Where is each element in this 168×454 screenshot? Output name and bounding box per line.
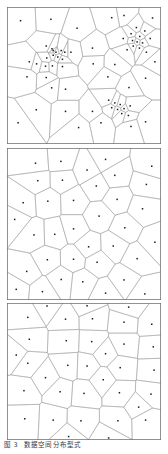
site-point: [105, 292, 107, 294]
voronoi-cell: [49, 60, 58, 75]
voronoi-cell: [70, 303, 108, 317]
voronoi-cell: [48, 352, 78, 381]
voronoi-cell: [137, 221, 161, 267]
caption-text: 数据空间分布型式: [24, 441, 82, 449]
site-point: [98, 215, 100, 217]
voronoi-diagram-random: [7, 148, 161, 300]
voronoi-cell: [26, 31, 56, 53]
voronoi-cells: [7, 7, 161, 144]
site-point: [153, 369, 155, 371]
site-point: [146, 184, 148, 186]
site-point: [113, 245, 115, 247]
site-points: [15, 305, 154, 439]
site-point: [96, 185, 98, 187]
site-point: [151, 323, 153, 325]
panel-frame: [7, 7, 160, 143]
voronoi-cell: [79, 305, 109, 331]
site-point: [22, 202, 24, 204]
voronoi-cell: [71, 379, 102, 409]
voronoi-cell: [80, 173, 110, 202]
site-point: [128, 87, 130, 89]
site-point: [100, 122, 102, 124]
site-point: [29, 61, 31, 63]
site-point: [82, 281, 84, 283]
site-point: [91, 341, 93, 343]
site-point: [57, 56, 59, 58]
site-point: [103, 379, 105, 381]
voronoi-cell: [60, 184, 90, 214]
site-point: [133, 45, 135, 47]
voronoi-cell: [93, 336, 118, 366]
voronoi-cell: [61, 41, 67, 57]
site-point: [46, 77, 48, 79]
site-point: [23, 390, 25, 392]
voronoi-cell: [14, 92, 51, 143]
voronoi-cell: [7, 176, 36, 218]
voronoi-cell: [89, 422, 133, 440]
site-point: [153, 346, 155, 348]
voronoi-cell: [50, 170, 79, 195]
site-point: [20, 20, 22, 22]
voronoi-cell: [112, 106, 121, 119]
voronoi-cell: [89, 113, 115, 144]
site-point: [52, 50, 54, 52]
voronoi-cell: [47, 329, 79, 354]
voronoi-cell: [58, 55, 73, 63]
site-point: [145, 77, 147, 79]
voronoi-cell: [108, 303, 150, 318]
site-point: [45, 65, 47, 67]
site-point: [132, 40, 134, 42]
voronoi-cell: [48, 53, 56, 61]
voronoi-cell: [7, 334, 28, 376]
site-point: [45, 377, 47, 379]
site-point: [92, 111, 94, 113]
site-point: [62, 59, 64, 61]
voronoi-cell: [39, 61, 49, 72]
site-point: [117, 109, 119, 111]
site-point: [51, 87, 53, 89]
site-point: [73, 228, 75, 230]
voronoi-cell: [137, 335, 161, 359]
site-point: [92, 318, 94, 320]
site-point: [47, 259, 49, 261]
site-point: [144, 30, 146, 32]
site-point: [116, 199, 118, 201]
site-point: [73, 200, 75, 202]
site-point: [123, 108, 125, 110]
site-point: [47, 200, 49, 202]
site-point: [126, 49, 128, 51]
voronoi-cell: [130, 65, 161, 100]
site-point: [59, 391, 61, 393]
voronoi-cell: [132, 408, 161, 440]
voronoi-cell: [107, 355, 138, 380]
voronoi-cell: [36, 72, 58, 90]
site-point: [67, 365, 69, 367]
voronoi-cell: [38, 402, 67, 440]
site-point: [92, 47, 94, 49]
site-point: [119, 392, 121, 394]
site-point: [86, 169, 88, 171]
voronoi-cell: [141, 48, 161, 76]
voronoi-cell: [82, 201, 115, 234]
site-point: [46, 305, 48, 307]
voronoi-cell: [49, 100, 79, 138]
site-point: [123, 321, 125, 323]
site-point: [150, 393, 152, 395]
figure-container: 图 3数据空间分布型式: [0, 0, 168, 454]
site-point: [24, 418, 26, 420]
site-point: [62, 179, 64, 181]
site-point: [17, 122, 19, 124]
voronoi-cells: [7, 303, 161, 440]
voronoi-cell: [60, 244, 85, 273]
site-point: [65, 88, 67, 90]
voronoi-cell: [126, 272, 161, 300]
site-point: [62, 66, 64, 68]
site-point: [146, 51, 148, 53]
site-point: [15, 289, 17, 291]
site-point: [66, 340, 68, 342]
site-point: [111, 107, 113, 109]
voronoi-cell: [74, 230, 101, 258]
site-point: [138, 406, 140, 408]
voronoi-cell: [102, 186, 134, 215]
site-point: [145, 419, 147, 421]
